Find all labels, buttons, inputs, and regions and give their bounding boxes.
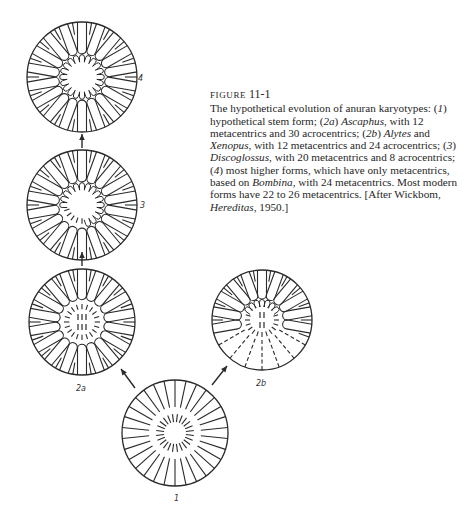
figure-caption: FIGURE 11-1 The hypothetical evolution o… xyxy=(210,88,460,213)
arrow-2a-to-3 xyxy=(79,252,85,266)
caption-fragment: 2b xyxy=(366,127,377,139)
stage-label-2a: 2a xyxy=(76,384,86,393)
karyotype-stage-1 xyxy=(122,380,228,486)
caption-fragment: Ascaphus xyxy=(341,115,384,127)
karyotype-stage-3 xyxy=(27,150,137,260)
karyotype-stage-2b xyxy=(212,270,312,370)
stage-label-1: 1 xyxy=(174,494,179,503)
figure-label-word: FIGURE xyxy=(210,90,246,100)
caption-text: The hypothetical evolution of anuran kar… xyxy=(210,102,457,212)
caption-fragment: Xenopus xyxy=(210,139,249,151)
caption-fragment: , with 12 metacentrics and 24 acrocentri… xyxy=(249,139,447,151)
caption-fragment: Discoglossus xyxy=(210,151,269,163)
stage-label-3: 3 xyxy=(140,201,145,210)
arrow-1-to-2b xyxy=(212,366,227,385)
caption-fragment: Bombina xyxy=(252,176,292,188)
caption-fragment: ) xyxy=(452,139,456,151)
caption-fragment: The hypothetical evolution of anuran kar… xyxy=(210,102,437,114)
caption-fragment: 2a xyxy=(323,115,334,127)
figure-label: FIGURE 11-1 xyxy=(210,88,460,101)
karyotype-stage-4 xyxy=(27,22,137,132)
stage-label-2b: 2b xyxy=(256,379,266,388)
arrow-3-to-4 xyxy=(79,134,85,148)
karyotype-stage-2a xyxy=(29,269,135,375)
caption-fragment: Hereditas xyxy=(210,201,254,213)
arrow-1-to-2a xyxy=(121,369,135,388)
caption-fragment: Alytes xyxy=(384,127,411,139)
evolution-arrows xyxy=(79,134,227,388)
karyotype-diagram xyxy=(0,0,465,515)
figure-label-number: 11-1 xyxy=(249,87,271,101)
stage-label-4: 4 xyxy=(138,74,143,83)
caption-fragment: and xyxy=(411,127,430,139)
caption-fragment: , 1950.] xyxy=(254,201,289,213)
